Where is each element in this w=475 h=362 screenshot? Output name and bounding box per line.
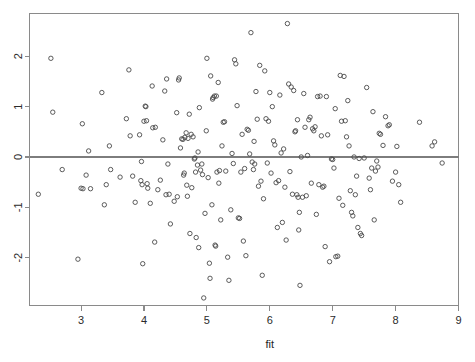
data-point [397,182,401,186]
data-point [167,192,171,196]
data-point [398,200,402,204]
data-point [204,129,208,133]
data-point [279,151,283,155]
data-point [378,132,382,136]
data-point [297,210,301,214]
data-point [284,238,288,242]
data-point [161,138,165,142]
data-point [432,140,436,144]
data-point [172,199,176,203]
y-tick-label: -2 [13,253,25,263]
x-tick-label: 9 [455,314,461,326]
data-point [333,106,337,110]
x-tick-label: 7 [330,314,336,326]
data-point [163,89,167,93]
data-point [133,200,137,204]
data-point [295,118,299,122]
data-point [341,203,345,207]
data-point [387,123,391,127]
data-point [227,278,231,282]
y-tick-label: 1 [13,104,25,110]
data-point [246,128,250,132]
data-point [185,194,189,198]
data-point [393,170,397,174]
data-point [261,197,265,201]
x-axis-title-text: fit [266,338,275,350]
data-point [202,296,206,300]
data-point [207,261,211,265]
data-point [383,115,387,119]
data-point [348,189,352,193]
data-point [319,134,323,138]
data-point [303,125,307,129]
data-point [188,231,192,235]
data-point [230,151,234,155]
data-point [150,84,154,88]
data-point [372,218,376,222]
data-point [275,225,279,229]
data-point [254,89,258,93]
data-point [164,77,168,81]
data-point [208,276,212,280]
data-point [175,195,179,199]
x-tick-label: 3 [78,314,84,326]
data-point [440,161,444,165]
data-point [309,181,313,185]
data-point [298,283,302,287]
data-point [381,143,385,147]
data-point [208,74,212,78]
data-point [249,30,253,34]
data-point [376,165,380,169]
data-point [146,186,150,190]
data-point [265,161,269,165]
data-point [375,159,379,163]
data-point [369,166,373,170]
data-point [270,104,274,108]
data-point [269,171,273,175]
data-point [302,91,306,95]
data-point [280,220,284,224]
data-point [86,149,90,153]
data-point [205,56,209,60]
data-point [234,62,238,66]
data-point [285,21,289,25]
data-point [417,120,421,124]
data-point [304,194,308,198]
data-point [195,163,199,167]
data-point [197,105,201,109]
data-point [371,109,375,113]
data-point [217,181,221,185]
data-point [84,173,88,177]
data-point [281,147,285,151]
data-point [216,80,220,84]
plot-frame [30,14,459,306]
scatter-plot-figure: 3456789210-1-2fit fit [0,0,475,362]
data-point [291,88,295,92]
data-point [108,167,112,171]
data-point [168,222,172,226]
data-point [240,132,244,136]
data-point [356,225,360,229]
data-point [152,240,156,244]
data-point [203,211,207,215]
data-point [137,133,141,137]
data-point [141,262,145,266]
y-tick-label: 2 [13,53,25,59]
data-point [266,119,270,123]
data-point [224,169,228,173]
data-point [36,192,40,196]
data-point [373,169,377,173]
data-point [185,183,189,187]
data-point [273,143,277,147]
data-point [200,172,204,176]
data-point [353,193,357,197]
data-point [139,159,143,163]
data-point [258,63,262,67]
data-point [166,162,170,166]
data-point [184,131,188,135]
data-point [368,188,372,192]
x-tick-label: 6 [267,314,273,326]
data-point [332,166,336,170]
data-point [283,185,287,189]
data-point [259,179,263,183]
